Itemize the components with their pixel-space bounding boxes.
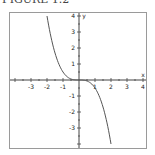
y-tick-label: -1: [69, 92, 75, 99]
x-axis-label: x: [141, 71, 145, 78]
x-tick-label: 2: [109, 83, 113, 90]
x-tick-label: -3: [28, 83, 34, 90]
x-tick-label: 4: [141, 83, 145, 90]
y-tick-label: -3: [69, 124, 75, 131]
x-tick-label: -2: [44, 83, 50, 90]
y-tick-label: -2: [69, 108, 75, 115]
y-tick-label: 1: [71, 60, 75, 67]
y-tick-label: 3: [71, 28, 75, 35]
cubic-function-plot: -3-2-112344321-1-2-3xy: [0, 0, 155, 155]
x-tick-label: -1: [60, 83, 66, 90]
y-axis-label: y: [82, 12, 86, 20]
x-tick-label: 3: [125, 83, 129, 90]
y-tick-label: 2: [71, 44, 75, 51]
y-tick-label: 4: [71, 12, 75, 19]
